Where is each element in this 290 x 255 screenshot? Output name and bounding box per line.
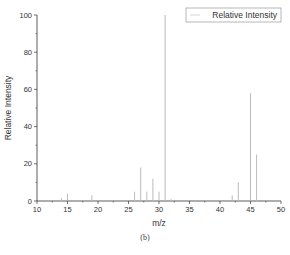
x-tick-label: 25 [124,205,132,214]
figure-caption: (b) [0,233,290,242]
legend-label: Relative Intensity [212,10,277,20]
y-tick-label: 100 [19,11,32,20]
x-tick-label: 35 [185,205,193,214]
x-tick-label: 40 [216,205,224,214]
spectrum-peaks [61,15,256,201]
y-tick-label: 0 [28,197,32,206]
y-axis-ticks: 020406080100 [19,11,37,206]
legend: Relative Intensity [186,8,281,22]
x-tick-label: 45 [246,205,254,214]
x-tick-label: 50 [277,205,285,214]
y-tick-label: 60 [24,85,32,94]
x-tick-label: 10 [33,205,41,214]
x-axis-title: m/z [152,218,166,228]
y-tick-label: 40 [24,122,32,131]
y-axis-title: Relative Intensity [3,75,13,140]
y-tick-label: 20 [24,159,32,168]
axes [37,15,281,201]
mass-spectrum-chart: 020406080100 101520253035404550 Relative… [0,0,290,230]
x-tick-label: 30 [155,205,163,214]
x-axis-ticks: 101520253035404550 [33,201,285,214]
y-tick-label: 80 [24,48,32,57]
x-tick-label: 20 [94,205,102,214]
x-tick-label: 15 [63,205,71,214]
